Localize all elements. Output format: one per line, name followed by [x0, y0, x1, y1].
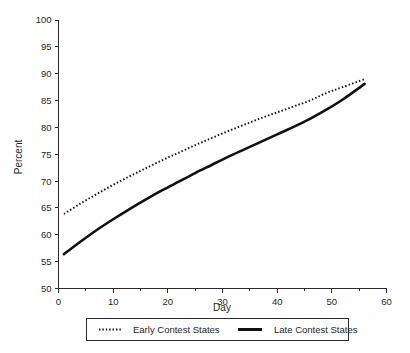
- y-axis-title: Percent: [13, 140, 24, 175]
- x-tick-label: 50: [327, 296, 338, 307]
- y-tick-label: 65: [41, 202, 52, 213]
- x-tick-label: 10: [108, 296, 119, 307]
- x-tick-label: 20: [163, 296, 174, 307]
- y-tick-label: 75: [41, 149, 52, 160]
- y-tick-label: 60: [41, 229, 52, 240]
- y-tick-label: 50: [41, 283, 52, 294]
- x-axis-title: Day: [213, 302, 231, 313]
- line-chart-canvas: 50556065707580859095100 0102030405060 Da…: [0, 0, 410, 353]
- chart-legend: Early Contest States Late Contest States: [87, 319, 358, 341]
- y-tick-label: 95: [41, 41, 52, 52]
- y-tick-label: 80: [41, 122, 52, 133]
- y-tick-label: 90: [41, 68, 52, 79]
- chart-background: [0, 0, 410, 353]
- x-tick-label: 60: [381, 296, 392, 307]
- chart-figure: 50556065707580859095100 0102030405060 Da…: [0, 0, 410, 353]
- x-tick-label: 0: [56, 296, 61, 307]
- x-tick-label: 40: [272, 296, 283, 307]
- legend-label-late: Late Contest States: [274, 324, 358, 335]
- y-tick-label: 70: [41, 176, 52, 187]
- legend-label-early: Early Contest States: [133, 324, 220, 335]
- y-tick-label: 100: [36, 14, 52, 25]
- y-tick-label: 55: [41, 256, 52, 267]
- y-tick-label: 85: [41, 95, 52, 106]
